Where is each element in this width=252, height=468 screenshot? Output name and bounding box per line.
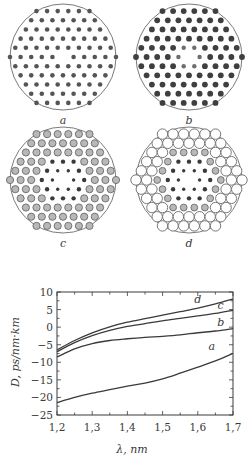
air-hole — [173, 138, 183, 148]
air-hole — [18, 36, 23, 41]
curve-label-b: b — [217, 316, 224, 329]
air-hole — [189, 221, 199, 231]
air-hole — [55, 64, 60, 69]
air-hole — [61, 159, 65, 163]
air-hole — [170, 204, 177, 211]
air-hole — [186, 36, 192, 42]
air-hole — [22, 204, 29, 211]
air-hole — [18, 55, 23, 60]
air-hole — [77, 101, 82, 106]
fiber-cross-sections: abcd — [6, 4, 247, 250]
air-hole — [24, 46, 29, 51]
air-hole — [107, 167, 114, 174]
air-hole — [170, 149, 177, 156]
air-hole — [205, 212, 215, 222]
air-hole — [45, 82, 50, 87]
chart-axes — [57, 292, 233, 415]
air-hole — [97, 167, 104, 174]
air-hole — [200, 221, 210, 231]
air-hole — [17, 195, 24, 202]
air-hole — [160, 63, 166, 69]
air-hole — [207, 17, 213, 23]
x-axis-label: λ, nm — [115, 443, 147, 456]
air-hole — [184, 212, 194, 222]
air-hole — [17, 158, 24, 165]
air-hole — [141, 175, 151, 185]
air-hole — [154, 72, 160, 78]
air-hole — [75, 131, 82, 138]
air-hole — [213, 100, 219, 106]
air-hole — [38, 213, 45, 220]
air-hole — [93, 91, 98, 96]
air-hole — [103, 55, 108, 60]
air-hole — [221, 184, 231, 194]
air-hole — [202, 45, 208, 51]
air-hole — [45, 27, 50, 32]
air-hole — [218, 91, 224, 97]
air-hole — [77, 82, 82, 87]
air-hole — [65, 149, 72, 156]
air-hole — [55, 101, 60, 106]
air-hole — [33, 186, 40, 193]
curve-d — [57, 299, 233, 350]
air-hole — [160, 82, 166, 88]
air-hole — [114, 55, 119, 60]
air-hole — [176, 55, 180, 59]
air-hole — [229, 36, 235, 42]
air-hole — [218, 54, 224, 60]
air-hole — [154, 177, 161, 184]
air-hole — [38, 158, 45, 165]
air-hole — [44, 204, 51, 211]
air-hole — [184, 138, 194, 148]
air-hole — [144, 36, 150, 42]
air-hole — [93, 73, 98, 78]
air-hole — [50, 73, 55, 78]
air-hole — [22, 186, 29, 193]
air-hole — [152, 156, 162, 166]
air-hole — [218, 17, 224, 23]
air-hole — [50, 36, 55, 41]
air-hole — [22, 149, 29, 156]
air-hole — [34, 27, 39, 32]
air-hole — [203, 187, 207, 191]
air-hole — [75, 204, 82, 211]
air-hole — [54, 149, 61, 156]
air-hole — [81, 140, 88, 147]
air-hole — [44, 222, 51, 229]
air-hole — [49, 140, 56, 147]
air-hole — [97, 186, 104, 193]
air-hole — [197, 159, 201, 163]
air-hole — [176, 196, 180, 200]
air-hole — [12, 186, 19, 193]
air-hole — [98, 27, 103, 32]
air-hole — [182, 169, 185, 172]
air-hole — [144, 54, 150, 60]
air-hole — [229, 72, 235, 78]
air-hole — [194, 212, 204, 222]
air-hole — [171, 169, 175, 173]
air-hole — [33, 149, 40, 156]
air-hole — [98, 82, 103, 87]
air-hole — [45, 101, 50, 106]
air-hole — [221, 147, 231, 157]
air-hole — [103, 73, 108, 78]
air-hole — [40, 36, 45, 41]
air-hole — [82, 55, 87, 60]
air-hole — [87, 9, 92, 14]
panel-label: c — [60, 237, 66, 250]
air-hole — [223, 27, 229, 33]
x-tick-label: 1,2 — [49, 421, 66, 433]
curve-b — [57, 329, 233, 357]
air-hole — [164, 195, 171, 202]
air-hole — [170, 45, 176, 51]
air-hole — [171, 187, 175, 191]
air-hole — [102, 195, 109, 202]
y-tick-label: −25 — [31, 409, 53, 421]
air-hole — [157, 221, 167, 231]
air-hole — [232, 166, 242, 176]
air-hole — [221, 166, 231, 176]
air-hole — [77, 27, 82, 32]
air-hole — [207, 72, 213, 78]
air-hole — [66, 64, 71, 69]
air-hole — [160, 8, 166, 14]
